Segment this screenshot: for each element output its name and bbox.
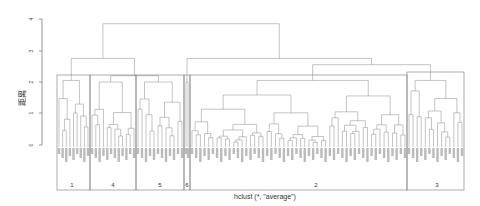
y-tick-4: 4: [28, 17, 34, 20]
cluster-label-2: 2: [314, 182, 318, 188]
cluster-box-4: [90, 75, 136, 190]
y-axis-title: 距离: [17, 90, 27, 106]
cluster-labels: 1 4 5 6 2 3: [70, 182, 439, 188]
cluster-box-3: [407, 72, 464, 190]
y-tick-3: 3: [28, 49, 34, 52]
cluster-box-5: [136, 75, 184, 190]
y-tick-1: 1: [28, 111, 34, 114]
dendrogram-plot: 4 3 2 1 0 距离 1 4 5 6 2 3 hclust (*, "ave…: [0, 0, 480, 206]
cluster-label-3: 3: [435, 182, 439, 188]
cluster-label-1: 1: [70, 182, 74, 188]
dendrogram-branches: [59, 24, 462, 147]
cluster-label-6: 6: [185, 182, 189, 188]
cluster-label-4: 4: [111, 182, 115, 188]
y-tick-0: 0: [28, 143, 34, 146]
x-axis-method-label: hclust (*, "average"): [234, 193, 296, 201]
cluster-label-5: 5: [158, 182, 162, 188]
y-tick-labels: 4 3 2 1 0: [28, 17, 34, 146]
y-axis: [39, 19, 42, 145]
cluster-box-2: [190, 75, 407, 190]
leaf-labels: [58, 148, 463, 162]
y-tick-2: 2: [28, 80, 34, 83]
cluster-box-6: [184, 75, 190, 190]
